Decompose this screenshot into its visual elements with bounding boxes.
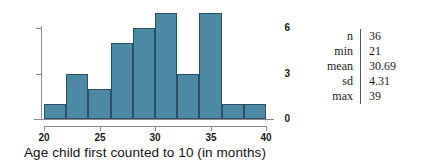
stat-value: 21 xyxy=(361,44,422,59)
stat-row: mean30.69 xyxy=(305,59,421,74)
x-axis-title: Age child first counted to 10 (in months… xyxy=(0,145,290,160)
stat-label: min xyxy=(305,44,361,59)
y-tick-label: 3 xyxy=(264,69,290,79)
stat-row: n36 xyxy=(305,29,421,44)
stat-label: sd xyxy=(305,74,361,89)
x-tick-label: 30 xyxy=(140,132,170,143)
x-tick-mark xyxy=(211,126,212,131)
stat-label: n xyxy=(305,29,361,44)
summary-statistics-body: n36min21mean30.69sd4.31max39 xyxy=(305,29,421,104)
y-tick-label: 6 xyxy=(264,23,290,33)
y-axis-line xyxy=(41,26,42,120)
summary-statistics-table: n36min21mean30.69sd4.31max39 xyxy=(305,29,421,104)
histogram-bar xyxy=(177,74,199,119)
stat-value: 39 xyxy=(361,89,422,104)
histogram-bar xyxy=(222,104,244,119)
x-tick-mark xyxy=(44,126,45,131)
y-tick-mark xyxy=(36,74,41,75)
x-tick-label: 35 xyxy=(196,132,226,143)
stat-value: 30.69 xyxy=(361,59,422,74)
stat-row: max39 xyxy=(305,89,421,104)
histogram-figure: 036 2025303540 Age child first counted t… xyxy=(0,0,426,167)
y-tick-mark xyxy=(36,28,41,29)
stat-value: 4.31 xyxy=(361,74,422,89)
stat-label: max xyxy=(305,89,361,104)
x-tick-label: 20 xyxy=(29,132,59,143)
x-axis-line xyxy=(34,119,274,120)
stat-value: 36 xyxy=(361,29,422,44)
x-tick-mark xyxy=(266,126,267,131)
histogram-bar xyxy=(111,43,133,119)
histogram-bar xyxy=(88,89,110,119)
x-tick-label: 25 xyxy=(85,132,115,143)
histogram-bar xyxy=(44,104,66,119)
stat-row: min21 xyxy=(305,44,421,59)
histogram-bar xyxy=(133,28,155,119)
x-tick-mark xyxy=(100,126,101,131)
histogram-bar xyxy=(244,104,266,119)
stat-label: mean xyxy=(305,59,361,74)
histogram-bar xyxy=(155,13,177,119)
histogram-bar xyxy=(199,13,221,119)
x-tick-mark xyxy=(155,126,156,131)
histogram-plot: 036 2025303540 Age child first counted t… xyxy=(0,0,290,167)
x-tick-label: 40 xyxy=(251,132,281,143)
stat-row: sd4.31 xyxy=(305,74,421,89)
plot-area xyxy=(44,13,266,119)
histogram-bar xyxy=(66,74,88,119)
